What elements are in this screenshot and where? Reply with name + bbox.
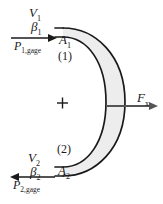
outlet-pressure-label: P2,gage — [13, 179, 40, 194]
inlet-pressure-label: P1,gage — [14, 40, 41, 55]
force-label-fx: Fx — [137, 91, 149, 108]
centroid-cross-icon — [57, 98, 68, 109]
inlet-section-label: (1) — [58, 50, 72, 62]
inlet-area-label: A1 — [59, 33, 71, 50]
outlet-section-label: (2) — [57, 143, 71, 155]
control-volume-figure: V1 β1 P1,gage A1 (1) (2) A2 V2 β2 P2,gag… — [0, 0, 163, 204]
vane-body — [63, 28, 125, 176]
inlet-beta-label: β1 — [31, 20, 42, 37]
outlet-area-label: A2 — [58, 164, 70, 181]
